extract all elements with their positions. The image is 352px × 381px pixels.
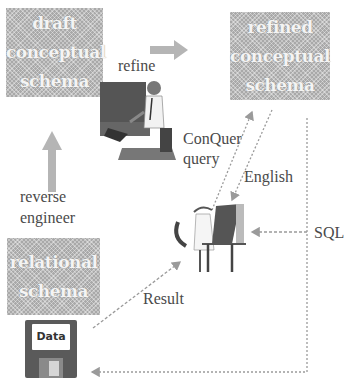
- english-arrow: [232, 110, 272, 200]
- floppy-disk-icon: Data: [25, 320, 77, 378]
- sql-label: SQL: [314, 224, 344, 242]
- refine-arrow-icon: [150, 40, 188, 60]
- floppy-shutter: [39, 358, 63, 378]
- query-label: query: [183, 150, 219, 168]
- reverse-label: reverse: [20, 188, 66, 206]
- seated-user-at-computer-icon: [176, 204, 246, 272]
- refine-label: refine: [118, 57, 155, 75]
- conquer-label: ConQuer: [183, 130, 242, 148]
- english-label: English: [244, 168, 293, 186]
- result-label: Result: [143, 290, 184, 308]
- engineer-label: engineer: [20, 209, 75, 227]
- data-store-label: Data: [32, 324, 70, 350]
- reverse-engineer-arrow-icon: [42, 131, 62, 192]
- person-at-computer-icon: [100, 81, 176, 160]
